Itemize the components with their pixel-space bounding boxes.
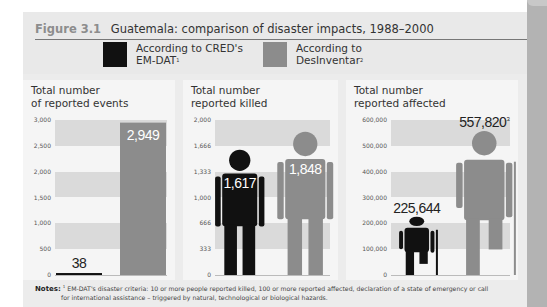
person-head xyxy=(229,150,250,171)
data-label-desinventar: 2,949 xyxy=(113,127,173,143)
figure-title: Figure 3.1 Guatemala: comparison of disa… xyxy=(35,22,434,36)
person-arm-right xyxy=(506,163,512,217)
person-arm-left xyxy=(399,231,403,249)
legend-swatch-emdat xyxy=(103,42,127,67)
person-leg-right xyxy=(308,217,322,275)
person-leg-left xyxy=(224,224,237,275)
legend-label-desinventar-line2: DesInventar xyxy=(296,54,360,66)
bar-desinventar xyxy=(120,123,166,275)
data-label-emdat: 225,644 xyxy=(387,200,447,216)
person-emdat xyxy=(215,150,264,275)
person-leg-left xyxy=(466,218,480,275)
person-leg-left xyxy=(288,217,302,275)
legend-sup-desinventar: 2 xyxy=(360,57,363,63)
notes-label: Notes: xyxy=(35,285,61,293)
legend-sup-emdat: 1 xyxy=(176,57,179,63)
person-head xyxy=(293,132,317,156)
page-edge-band xyxy=(527,0,547,307)
data-label-desinventar: 557,8203 xyxy=(454,114,514,130)
chart-panel-affected: Total number reported affected 600,00050… xyxy=(346,80,518,280)
person-leg-right xyxy=(243,224,256,275)
data-label-desinventar: 1,848 xyxy=(275,161,335,177)
notes-line1: EM-DAT's disaster criteria: 10 or more p… xyxy=(67,285,488,292)
figure-number: Figure 3.1 xyxy=(35,22,101,36)
legend-label-emdat-line2: EM-DAT xyxy=(136,54,176,66)
chart-panel-killed: Total number reported killed 2,0001,6661… xyxy=(183,80,338,280)
legend-swatch-desinventar xyxy=(263,42,287,67)
person-desinventar xyxy=(277,132,333,275)
person-leg-right-bent xyxy=(489,218,503,249)
legend-item-desinventar: According to DesInventar2 xyxy=(263,42,363,67)
legend-item-emdat: According to CRED's EM-DAT1 xyxy=(103,42,243,67)
chart-marks-affected xyxy=(346,80,518,280)
crutch xyxy=(514,162,516,275)
person-head xyxy=(409,217,424,226)
crutch xyxy=(436,230,438,275)
person-crutch-desinventar xyxy=(456,131,516,275)
notes-line2: for international assistance – triggered… xyxy=(35,294,328,301)
person-head xyxy=(472,131,496,155)
person-arm-right xyxy=(430,231,434,253)
person-leg-right-bent xyxy=(419,250,427,264)
notes: Notes: 1 EM-DAT's disaster criteria: 10 … xyxy=(35,283,525,302)
person-crutch-emdat xyxy=(399,217,438,275)
person-torso xyxy=(405,228,429,252)
data-label-emdat: 38 xyxy=(49,255,109,271)
figure-title-text: Guatemala: comparison of disaster impact… xyxy=(111,22,434,36)
notes-sup: 1 xyxy=(63,284,66,289)
data-label-emdat: 1,617 xyxy=(210,175,270,191)
person-leg-left xyxy=(406,250,414,275)
legend-label-emdat-line1: According to CRED's xyxy=(136,42,243,54)
data-label-sup: 3 xyxy=(506,116,509,122)
title-rule xyxy=(35,39,527,40)
person-arm-left xyxy=(456,163,462,208)
chart-panel-events: Total number of reported events 3,0002,5… xyxy=(23,80,175,280)
bar-emdat xyxy=(56,273,102,275)
legend-label-desinventar-line1: According to xyxy=(296,42,363,54)
person-torso xyxy=(464,160,504,221)
chart-marks-events xyxy=(23,80,175,280)
